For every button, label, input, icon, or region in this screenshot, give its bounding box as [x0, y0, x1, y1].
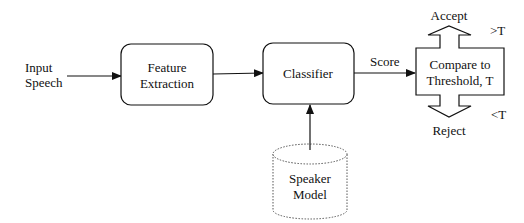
feature-extraction-block: Feature Extraction	[121, 44, 213, 105]
speaker-model-line1: Speaker	[289, 171, 332, 186]
reject-label: Reject	[432, 123, 466, 138]
arrow-feature-to-classifier	[213, 73, 263, 74]
classifier-label: Classifier	[283, 66, 333, 81]
speaker-model-line2: Model	[293, 187, 327, 202]
classifier-block: Classifier	[263, 43, 354, 104]
input-label-line1: Input	[25, 60, 53, 75]
feature-extraction-line2: Extraction	[140, 76, 195, 91]
accept-label: Accept	[431, 8, 468, 23]
reject-condition: <T	[491, 107, 506, 122]
input-label-line2: Speech	[25, 75, 63, 90]
speaker-verification-diagram: Input Speech Feature Extraction Classifi…	[0, 0, 524, 223]
input-speech-label: Input Speech	[25, 60, 63, 90]
compare-line2: Threshold, T	[427, 73, 494, 88]
feature-extraction-line1: Feature	[148, 60, 187, 75]
score-label: Score	[370, 54, 400, 69]
compare-line1: Compare to	[429, 57, 490, 72]
accept-condition: >T	[490, 23, 505, 38]
speaker-model-database: Speaker Model	[273, 144, 347, 219]
compare-threshold-block: Compare to Threshold, T	[416, 26, 504, 117]
